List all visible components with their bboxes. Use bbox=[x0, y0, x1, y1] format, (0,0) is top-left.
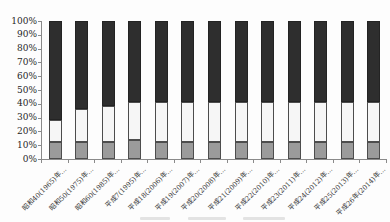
bar-6-segment-0 bbox=[181, 142, 194, 159]
bar-8-segment-0 bbox=[235, 142, 248, 159]
bar-10-segment-1 bbox=[288, 102, 301, 141]
y-axis-tick-label: 100% bbox=[1, 16, 37, 27]
bar-12-segment-1 bbox=[341, 102, 354, 141]
bar-12 bbox=[341, 21, 354, 159]
x-axis-tick-mark bbox=[253, 160, 254, 163]
bar-9-segment-1 bbox=[261, 102, 274, 141]
y-axis-tick-label: 60% bbox=[1, 71, 37, 82]
bar-3 bbox=[102, 21, 115, 159]
y-axis-tick-mark bbox=[38, 118, 41, 119]
x-axis-tick-mark bbox=[121, 160, 122, 163]
y-axis-tick-label: 40% bbox=[1, 98, 37, 109]
x-axis-tick-mark bbox=[174, 160, 175, 163]
y-axis-tick-label: 80% bbox=[1, 43, 37, 54]
bar-9-segment-0 bbox=[261, 142, 274, 159]
bar-10-segment-0 bbox=[288, 142, 301, 159]
bar-5-segment-0 bbox=[155, 142, 168, 159]
y-axis-tick-label: 90% bbox=[1, 29, 37, 40]
x-axis-tick-mark bbox=[280, 160, 281, 163]
bar-3-segment-0 bbox=[102, 142, 115, 159]
bar-13-segment-1 bbox=[367, 102, 380, 142]
y-axis-tick-label: 50% bbox=[1, 85, 37, 96]
bar-6 bbox=[181, 21, 194, 159]
y-axis-tick-mark bbox=[38, 90, 41, 91]
bar-13-segment-0 bbox=[367, 142, 380, 159]
x-axis-tick-mark bbox=[94, 160, 95, 163]
bar-6-segment-2 bbox=[181, 21, 194, 102]
bar-8-segment-1 bbox=[235, 102, 248, 141]
bar-8 bbox=[235, 21, 248, 159]
bar-10-segment-2 bbox=[288, 21, 301, 102]
bar-2-segment-1 bbox=[75, 109, 88, 141]
y-axis-tick-mark bbox=[38, 62, 41, 63]
bar-2-segment-2 bbox=[75, 21, 88, 109]
x-axis-tick-mark bbox=[200, 160, 201, 163]
bar-13-segment-2 bbox=[367, 21, 380, 102]
bar-11 bbox=[314, 21, 327, 159]
x-axis-tick-mark bbox=[227, 160, 228, 163]
y-axis-tick-mark bbox=[38, 35, 41, 36]
bar-12-segment-2 bbox=[341, 21, 354, 102]
bar-4-segment-2 bbox=[128, 21, 141, 102]
bar-5-segment-2 bbox=[155, 21, 168, 102]
bar-1-segment-2 bbox=[49, 21, 62, 120]
bar-6-segment-1 bbox=[181, 102, 194, 141]
x-axis-category-label: 昭和40(1965)年… bbox=[20, 164, 69, 213]
y-axis-tick-mark bbox=[38, 104, 41, 105]
y-axis-tick-label: 30% bbox=[1, 112, 37, 123]
legend-cutoff-fragment bbox=[243, 217, 285, 220]
x-axis-tick-mark bbox=[41, 160, 42, 163]
bar-1 bbox=[49, 21, 62, 159]
y-axis-tick-label: 0% bbox=[1, 154, 37, 165]
bar-2 bbox=[75, 21, 88, 159]
bar-2-segment-0 bbox=[75, 142, 88, 159]
y-axis-tick-mark bbox=[38, 21, 41, 22]
bar-9-segment-2 bbox=[261, 21, 274, 102]
bar-4 bbox=[128, 21, 141, 159]
bar-13 bbox=[367, 21, 380, 159]
bar-11-segment-0 bbox=[314, 142, 327, 159]
x-axis-tick-mark bbox=[147, 160, 148, 163]
y-axis-tick-label: 10% bbox=[1, 140, 37, 151]
bar-5 bbox=[155, 21, 168, 159]
y-axis-tick-mark bbox=[38, 76, 41, 77]
y-axis-tick-label: 20% bbox=[1, 126, 37, 137]
bar-7 bbox=[208, 21, 221, 159]
x-axis-tick-mark bbox=[306, 160, 307, 163]
bar-12-segment-0 bbox=[341, 142, 354, 159]
bar-1-segment-1 bbox=[49, 120, 62, 142]
bar-5-segment-1 bbox=[155, 102, 168, 142]
bar-3-segment-2 bbox=[102, 21, 115, 106]
x-axis-category-label: 平成26年(2014)年… bbox=[333, 164, 387, 218]
bar-10 bbox=[288, 21, 301, 159]
bar-1-segment-0 bbox=[49, 142, 62, 159]
y-axis-tick-mark bbox=[38, 49, 41, 50]
x-axis-tick-mark bbox=[333, 160, 334, 163]
bar-4-segment-0 bbox=[128, 140, 141, 159]
legend-cutoff-fragment bbox=[140, 217, 170, 220]
bar-3-segment-1 bbox=[102, 106, 115, 142]
y-axis-tick-mark bbox=[38, 131, 41, 132]
bar-4-segment-1 bbox=[128, 102, 141, 140]
x-axis-tick-mark bbox=[386, 160, 387, 163]
bar-8-segment-2 bbox=[235, 21, 248, 102]
x-axis-tick-mark bbox=[359, 160, 360, 163]
legend-cutoff-fragment bbox=[188, 217, 226, 220]
y-axis-tick-label: 70% bbox=[1, 57, 37, 68]
bar-11-segment-2 bbox=[314, 21, 327, 102]
bar-7-segment-2 bbox=[208, 21, 221, 102]
stacked-bar-chart-figure: 0%10%20%30%40%50%60%70%80%90%100% 昭和40(1… bbox=[0, 0, 390, 222]
plot-area bbox=[41, 21, 387, 160]
bar-11-segment-1 bbox=[314, 102, 327, 141]
x-axis-tick-mark bbox=[68, 160, 69, 163]
bar-9 bbox=[261, 21, 274, 159]
bar-7-segment-1 bbox=[208, 102, 221, 142]
bar-7-segment-0 bbox=[208, 142, 221, 159]
y-axis-tick-mark bbox=[38, 145, 41, 146]
